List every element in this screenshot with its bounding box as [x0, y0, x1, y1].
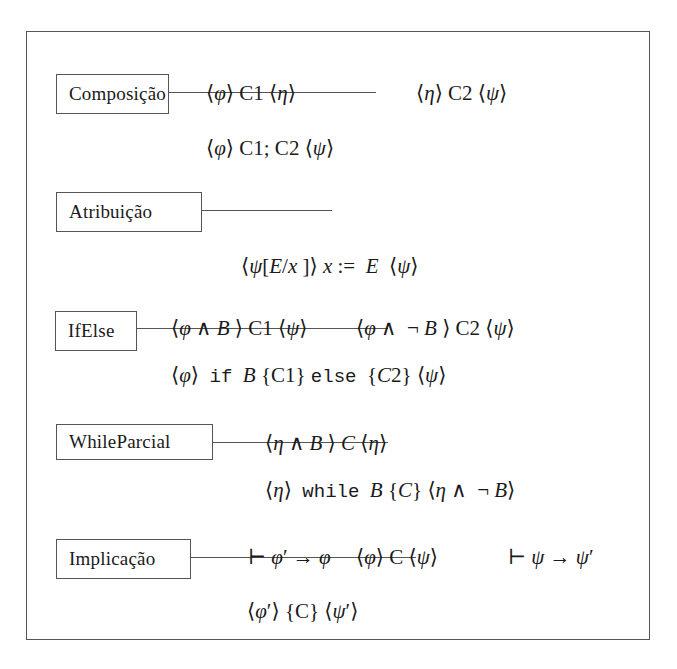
premise-3: ⊢ ψ → ψ′ [487, 526, 594, 589]
conclusion: ⟨η⟩ while B {C} ⟨η ∧ ¬ B⟩ [244, 459, 515, 523]
premise-2: ⟨η⟩ C2 ⟨ψ⟩ [395, 62, 507, 125]
premise-1: ⟨φ⟩ C1 ⟨η⟩ [185, 62, 296, 125]
rule-name: Implicação [69, 548, 155, 570]
conclusion: ⟨ψ[E/x ]⟩ x := E ⟨ψ⟩ [220, 235, 419, 298]
rule-label-implicacao: Implicação [56, 539, 191, 579]
rule-name: Composição [69, 83, 166, 105]
rule-label-composicao: Composição [56, 74, 169, 114]
rule-name: IfElse [68, 320, 115, 342]
conclusion: ⟨φ⟩ C1; C2 ⟨ψ⟩ [185, 117, 334, 180]
inference-bar [202, 210, 332, 211]
rule-label-ifelse: IfElse [55, 311, 137, 351]
rule-label-whileparcial: WhileParcial [56, 424, 213, 460]
rule-label-atribuicao: Atribuição [56, 192, 202, 232]
rule-name: Atribuição [69, 201, 152, 223]
conclusion: ⟨φ′⟩ {C} ⟨ψ′⟩ [226, 580, 358, 643]
conclusion: ⟨φ⟩ if B {C1} else {C2} ⟨ψ⟩ [150, 344, 446, 408]
rule-name: WhileParcial [69, 431, 171, 453]
